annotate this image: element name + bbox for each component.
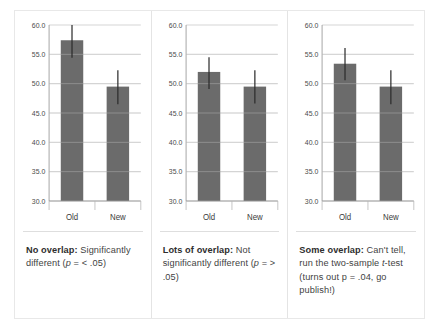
- bar: [334, 64, 356, 201]
- bar: [197, 72, 219, 201]
- y-axis-tick-label: 45.0: [169, 109, 182, 117]
- x-axis-category-label: New: [110, 213, 126, 222]
- y-axis-tick-label: 45.0: [305, 109, 318, 117]
- y-axis-tick-label: 35.0: [169, 168, 182, 176]
- x-axis-category-label: Old: [66, 213, 78, 222]
- y-axis-tick-label: 35.0: [32, 168, 45, 176]
- bar-chart-svg: 60.055.050.045.040.035.030.0OldNew: [294, 19, 416, 231]
- panel-no-overlap: 60.055.050.045.040.035.030.0OldNew No ov…: [15, 11, 151, 318]
- y-axis-tick-label: 30.0: [32, 197, 45, 205]
- error-bar-overlap-figure: 60.055.050.045.040.035.030.0OldNew No ov…: [14, 10, 425, 319]
- caption-no-overlap: No overlap: Significantly different (p =…: [15, 232, 151, 277]
- y-axis-tick-label: 50.0: [169, 80, 182, 88]
- y-axis-tick-label: 45.0: [32, 109, 45, 117]
- chart-lots-overlap: 60.055.050.045.040.035.030.0OldNew: [152, 11, 288, 231]
- y-axis-tick-label: 55.0: [305, 51, 318, 59]
- panel-some-overlap: 60.055.050.045.040.035.030.0OldNew Some …: [287, 11, 424, 318]
- y-axis-tick-label: 40.0: [32, 139, 45, 147]
- chart-some-overlap: 60.055.050.045.040.035.030.0OldNew: [288, 11, 424, 231]
- y-axis-tick-label: 50.0: [32, 80, 45, 88]
- bar: [61, 40, 83, 201]
- y-axis-tick-label: 40.0: [305, 139, 318, 147]
- y-axis-tick-label: 35.0: [305, 168, 318, 176]
- y-axis-tick-label: 60.0: [305, 21, 318, 29]
- y-axis-tick-label: 40.0: [169, 139, 182, 147]
- bar-chart-svg: 60.055.050.045.040.035.030.0OldNew: [158, 19, 280, 231]
- y-axis-tick-label: 55.0: [169, 51, 182, 59]
- x-axis-category-label: Old: [203, 213, 215, 222]
- caption-lots-overlap: Lots of overlap: Not significantly diffe…: [152, 232, 288, 290]
- y-axis-tick-label: 60.0: [32, 21, 45, 29]
- bar-chart-svg: 60.055.050.045.040.035.030.0OldNew: [21, 19, 143, 231]
- bar: [243, 87, 265, 201]
- y-axis-tick-label: 60.0: [169, 21, 182, 29]
- chart-no-overlap: 60.055.050.045.040.035.030.0OldNew: [15, 11, 151, 231]
- x-axis-category-label: Old: [339, 213, 351, 222]
- caption-some-overlap: Some overlap: Can't tell, run the two-sa…: [288, 232, 424, 303]
- x-axis-category-label: New: [247, 213, 263, 222]
- y-axis-tick-label: 55.0: [32, 51, 45, 59]
- x-axis-category-label: New: [383, 213, 399, 222]
- y-axis-tick-label: 30.0: [305, 197, 318, 205]
- caption-tail: = < .05): [71, 258, 106, 268]
- panel-lots-overlap: 60.055.050.045.040.035.030.0OldNew Lots …: [151, 11, 288, 318]
- caption-lead: Lots of overlap:: [163, 245, 234, 255]
- caption-lead: No overlap:: [26, 245, 78, 255]
- caption-lead: Some overlap:: [299, 245, 364, 255]
- y-axis-tick-label: 50.0: [305, 80, 318, 88]
- y-axis-tick-label: 30.0: [169, 197, 182, 205]
